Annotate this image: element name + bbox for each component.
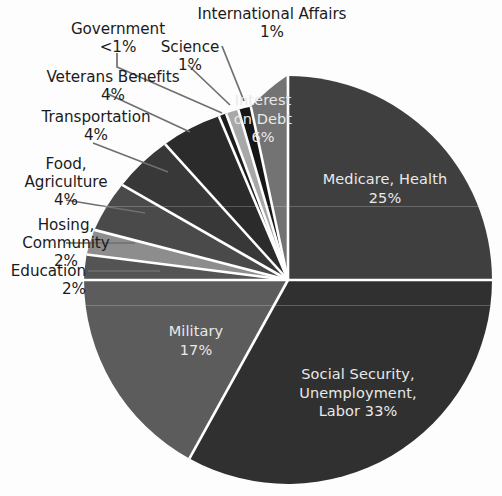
pie-chart-federal-budget: Medicare, Health 25% Social Security, Un… — [0, 0, 502, 496]
callout-label-international-affairs: International Affairs 1% — [172, 5, 372, 41]
callout-label-transportation: Transportation 4% — [6, 108, 186, 144]
callout-label-science: Science 1% — [148, 38, 232, 74]
callout-label-hosing-community: Hosing, Community 2% — [0, 216, 132, 271]
callout-label-food-agriculture: Food, Agriculture 4% — [0, 155, 132, 210]
slice-medicare-health[interactable] — [288, 76, 492, 280]
